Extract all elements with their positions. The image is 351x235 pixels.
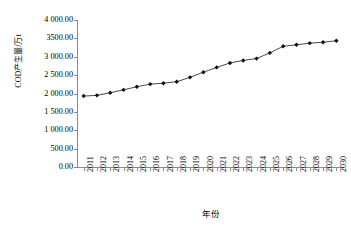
data-point-marker — [81, 94, 85, 98]
data-point-marker — [241, 58, 245, 62]
x-axis-tick-label: 2011 — [87, 156, 95, 172]
x-axis-tick-label: 2015 — [140, 156, 148, 172]
x-axis-title: 年份 — [77, 209, 344, 219]
x-axis-tick-label: 2025 — [273, 156, 281, 172]
x-axis-tick-label: 2022 — [233, 156, 241, 172]
y-axis-tick-label: 4 000.00 — [11, 16, 73, 24]
y-axis-tick-label: 0.00 — [11, 163, 73, 171]
chart-figure: COD产生量/万t 4 000.003500.003 000.002 500.0… — [0, 0, 351, 235]
x-axis-tick-label: 2017 — [167, 156, 175, 172]
x-axis-tick-label: 2018 — [180, 156, 188, 172]
x-axis-tick-label: 2027 — [300, 156, 308, 172]
data-point-marker — [95, 93, 99, 97]
data-point-marker — [148, 82, 152, 86]
x-axis-tick-label: 2014 — [127, 156, 135, 172]
y-axis-tick-label: 3 000.00 — [11, 53, 73, 61]
x-axis-tick-label: 2020 — [207, 156, 215, 172]
data-point-marker — [334, 39, 338, 43]
data-point-marker — [188, 75, 192, 79]
x-axis-tick-label: 2023 — [246, 156, 254, 172]
x-axis-tick-label: 2016 — [153, 156, 161, 172]
series-plot — [77, 20, 343, 167]
y-axis-tick-label: 2 500.00 — [11, 71, 73, 79]
data-point-marker — [175, 80, 179, 84]
y-axis-tick-label: 1 500.00 — [11, 108, 73, 116]
x-axis-tick-label: 2030 — [340, 156, 348, 172]
x-axis-tick-labels: 2011201220132014201520162017201820192020… — [77, 168, 344, 208]
data-point-marker — [121, 88, 125, 92]
data-point-marker — [281, 44, 285, 48]
y-axis-tick-label: 500.00 — [11, 145, 73, 153]
x-axis-tick-label: 2019 — [193, 156, 201, 172]
y-axis-tick-label: 2 000.00 — [11, 90, 73, 98]
data-point-marker — [321, 40, 325, 44]
x-axis-tick-label: 2012 — [100, 156, 108, 172]
x-axis-tick-label: 2024 — [260, 156, 268, 172]
y-axis-tick-label: 1 000.00 — [11, 126, 73, 134]
data-point-marker — [228, 61, 232, 65]
data-point-marker — [201, 70, 205, 74]
plot-area — [77, 20, 343, 167]
series-line — [84, 41, 337, 96]
data-point-marker — [135, 85, 139, 89]
x-axis-tick-label: 2026 — [286, 156, 294, 172]
y-axis-tick-label: 3500.00 — [11, 34, 73, 42]
data-point-marker — [268, 51, 272, 55]
data-point-marker — [308, 41, 312, 45]
data-point-marker — [108, 91, 112, 95]
x-axis-tick-label: 2013 — [113, 156, 121, 172]
x-axis-tick-label: 2021 — [220, 156, 228, 172]
x-axis-tick-label: 2029 — [326, 156, 334, 172]
data-point-marker — [161, 81, 165, 85]
data-point-marker — [294, 43, 298, 47]
y-axis-tick-labels: 4 000.003500.003 000.002 500.002 000.001… — [9, 20, 73, 167]
cropped-header-text — [4, 0, 144, 7]
x-axis-tick-label: 2028 — [313, 156, 321, 172]
data-point-marker — [214, 65, 218, 69]
data-point-marker — [254, 56, 258, 60]
